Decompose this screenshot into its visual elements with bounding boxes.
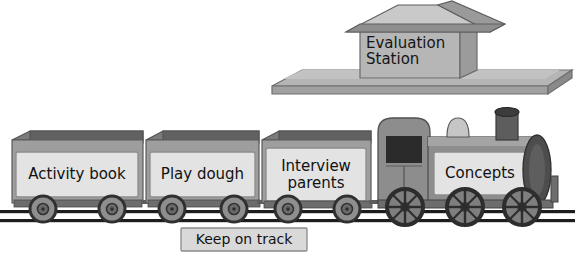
wagon1-label-panel — [16, 152, 138, 197]
wheel-axle — [41, 207, 45, 211]
driving-wheel — [387, 189, 423, 225]
illustration-canvas: Activity book Play dough Interview paren… — [0, 0, 575, 256]
driving-wheel — [447, 189, 483, 225]
cab-window — [386, 136, 422, 163]
wagon-interview-parents — [262, 131, 379, 222]
keep-on-track-sign — [181, 228, 307, 251]
wheel-axle — [232, 207, 236, 211]
roof-eave — [346, 24, 505, 32]
steam-dome — [447, 118, 469, 137]
wheel-axle — [345, 207, 349, 211]
locomotive-buffer — [551, 176, 558, 202]
locomotive-group — [378, 108, 558, 226]
wagon2-label-panel — [150, 152, 255, 197]
evaluation-station-group — [272, 1, 572, 94]
wagon-activity-book — [12, 131, 153, 222]
wagon-play-dough — [146, 131, 267, 222]
wagon3-label-panel — [266, 148, 366, 201]
smokebox-door — [529, 144, 545, 196]
station-front-wall — [360, 29, 460, 78]
chimney — [495, 108, 519, 141]
locomotive-wheels — [387, 189, 540, 225]
wheel-axle — [286, 207, 290, 211]
driving-wheel — [504, 189, 540, 225]
train-illustration — [0, 0, 575, 256]
dome-shape — [447, 118, 469, 137]
station-roof — [346, 1, 505, 32]
platform-front-edge — [272, 86, 548, 94]
chimney-cap — [495, 108, 519, 117]
wheel-axle — [110, 207, 114, 211]
wheel-axle — [170, 207, 174, 211]
locomotive-label-panel — [434, 152, 526, 195]
